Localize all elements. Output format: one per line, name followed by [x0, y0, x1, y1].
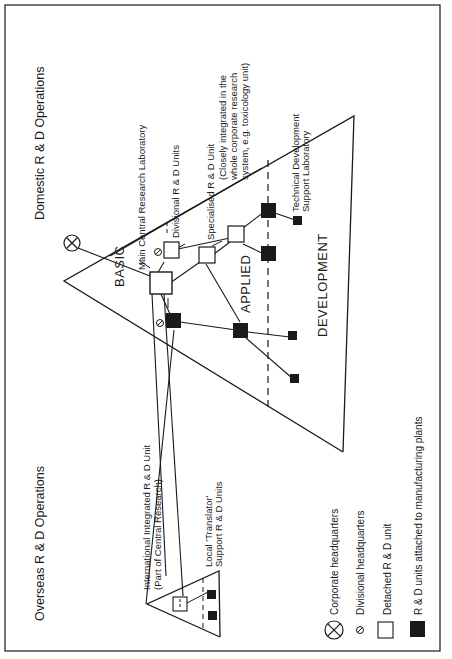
translator-unit-node — [207, 590, 216, 599]
overseas-title: Overseas R & D Operations — [33, 466, 47, 621]
specialised-label-line1: Specialised R & D Unit — [205, 144, 216, 240]
zone-basic-label: BASIC — [112, 245, 127, 287]
tech-dev-label-line2: Support Laboratory — [300, 130, 311, 212]
legend-item-divisional-hq: Divisional headquarters — [355, 510, 366, 633]
plant-unit-node — [233, 323, 248, 338]
plant-unit-node — [261, 203, 276, 218]
plant-unit-node — [288, 331, 297, 340]
legend-label: Detached R & D unit — [382, 524, 393, 615]
divisional-units-label: Divisional R & D Units — [170, 145, 181, 238]
divisional-hq-marker — [157, 320, 164, 327]
plant-unit-node — [261, 246, 276, 261]
international-label-line2: (Part of Central Research) — [152, 479, 163, 590]
basic-boundary-line — [110, 168, 262, 256]
legend-item-plant-unit: R & D units attached to manufacturing pl… — [410, 417, 425, 637]
legend-item-corporate-hq: Corporate headquarters — [325, 509, 343, 639]
specialised-label-line2: (Closely integrated in the — [217, 75, 228, 180]
translator-label-line2: Support R & D Units — [213, 481, 224, 567]
specialised-label-line3: whole corporate research — [228, 73, 239, 181]
plant-unit-node — [166, 313, 181, 328]
main-central-label: Main Central Research Laboratory — [136, 125, 147, 270]
connector-lines — [78, 212, 295, 604]
specialised-label-line4: system, e.g. toxicology unit) — [239, 63, 250, 180]
specialised-linked-unit-node — [228, 226, 244, 242]
plant-unit-icon — [410, 621, 425, 637]
domestic-title: Domestic R & D Operations — [33, 66, 47, 220]
zone-applied-label: APPLIED — [238, 255, 253, 313]
plant-unit-node — [290, 374, 299, 383]
legend-label: Corporate headquarters — [329, 509, 340, 615]
legend-label: R & D units attached to manufacturing pl… — [413, 417, 424, 615]
main-central-lab-node — [150, 272, 172, 294]
specialised-unit-node — [199, 247, 215, 263]
corporate-hq-icon — [325, 621, 343, 639]
international-label-line1: International Integrated R & D Unit — [141, 444, 152, 590]
detached-unit-icon — [378, 622, 393, 638]
divisional-unit-node — [164, 242, 179, 258]
legend-label: Divisional headquarters — [355, 510, 366, 615]
overseas-connector — [187, 592, 208, 603]
zone-development-label: DEVELOPMENT — [315, 233, 330, 337]
translator-unit-node — [208, 611, 217, 620]
corporate-hq-node — [64, 235, 80, 251]
divisional-hq-icon — [357, 627, 364, 634]
tech-dev-lab-node — [293, 216, 302, 225]
divisional-hq-marker — [155, 249, 162, 256]
rd-organisation-diagram: Domestic R & D Operations Overseas R & D… — [0, 0, 452, 659]
legend-item-detached-unit: Detached R & D unit — [378, 524, 393, 638]
